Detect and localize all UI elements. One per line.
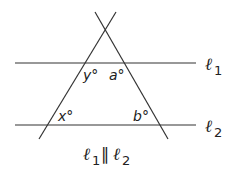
transversal-right — [95, 12, 168, 139]
angle-a-label: a° — [109, 67, 125, 83]
parallel-lines-diagram: y° a° x° b° ℓ 1 ℓ 2 ℓ 1 ∥ ℓ 2 — [0, 0, 232, 178]
line-l1-subscript: 1 — [214, 63, 222, 78]
caption-l1-subscript: 1 — [92, 153, 100, 168]
caption-parallel-symbol: ∥ — [101, 144, 110, 164]
angle-b-label: b° — [133, 108, 149, 124]
line-l2-subscript: 2 — [214, 125, 222, 140]
transversal-left — [39, 12, 116, 139]
caption-l2-subscript: 2 — [122, 153, 130, 168]
angle-y-label: y° — [82, 67, 98, 83]
angle-x-label: x° — [57, 108, 73, 124]
line-l2-label: ℓ — [205, 116, 212, 136]
caption-l1: ℓ — [83, 144, 90, 164]
caption-l2: ℓ — [113, 144, 120, 164]
line-l1-label: ℓ — [205, 54, 212, 74]
